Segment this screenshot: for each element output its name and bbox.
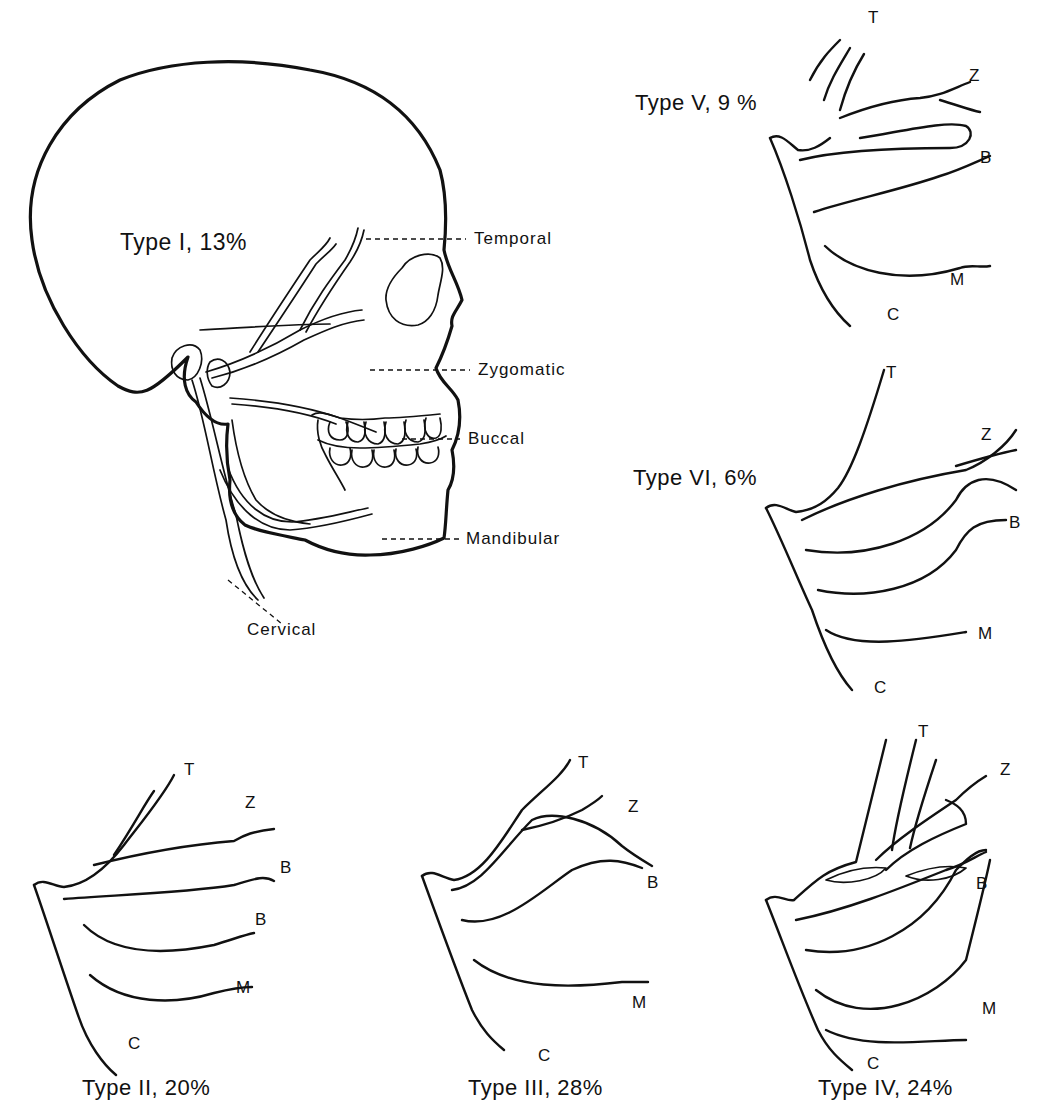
type-v-m-label: M bbox=[978, 624, 992, 644]
type-iii-z-label: Z bbox=[628, 797, 638, 817]
type-ii-c-label: C bbox=[128, 1034, 140, 1054]
type-iii-t-label: T bbox=[578, 753, 588, 773]
type-vi-b-label: B bbox=[976, 874, 987, 894]
type-ii-b1-label: B bbox=[280, 858, 291, 878]
type-iv-t-label: T bbox=[868, 8, 878, 28]
type-vi-z-label: Z bbox=[1000, 760, 1010, 780]
type-iii-title: Type III, 28% bbox=[468, 1075, 603, 1101]
type-v-c-label: C bbox=[874, 678, 886, 698]
type-i-nerve-branches bbox=[192, 228, 376, 600]
type-ii-t-label: T bbox=[184, 760, 194, 780]
type-v-b-label: B bbox=[1009, 513, 1020, 533]
facial-nerve-diagram bbox=[0, 0, 1041, 1117]
type-iii-m-label: M bbox=[632, 993, 646, 1013]
temporal-branch-label: Temporal bbox=[474, 229, 552, 249]
type-iii-b-label: B bbox=[647, 873, 658, 893]
type-vi-c-label: C bbox=[867, 1054, 879, 1074]
type-iii-c-label: C bbox=[538, 1046, 550, 1066]
skull-drawing bbox=[30, 62, 462, 555]
type-ii-nerve-diagram bbox=[34, 775, 274, 1075]
type-vi-m-label: M bbox=[982, 999, 996, 1019]
type-iv-m-label: M bbox=[950, 270, 964, 290]
type-ii-z-label: Z bbox=[245, 793, 255, 813]
type-iv-title: Type V, 9 % bbox=[635, 90, 757, 116]
type-v-title: Type VI, 6% bbox=[633, 465, 757, 491]
type-vi-t-label: T bbox=[918, 722, 928, 742]
type-iv-b-label: B bbox=[980, 148, 991, 168]
type-vi-nerve-diagram bbox=[766, 740, 990, 1070]
type-ii-title: Type II, 20% bbox=[82, 1075, 210, 1101]
zygomatic-branch-label: Zygomatic bbox=[478, 360, 565, 380]
cervical-branch-label: Cervical bbox=[247, 620, 316, 640]
type-i-title: Type I, 13% bbox=[120, 229, 247, 256]
type-iv-c-label: C bbox=[887, 305, 899, 325]
type-ii-b2-label: B bbox=[255, 910, 266, 930]
mandibular-branch-label: Mandibular bbox=[466, 529, 560, 549]
label-leader-lines bbox=[228, 239, 470, 624]
type-v-t-label: T bbox=[886, 363, 896, 383]
type-iv-z-label: Z bbox=[969, 66, 979, 86]
type-v-z-label: Z bbox=[981, 425, 991, 445]
type-iii-nerve-diagram bbox=[422, 760, 652, 1050]
type-ii-m-label: M bbox=[236, 978, 250, 998]
type-vi-title: Type IV, 24% bbox=[818, 1075, 953, 1101]
buccal-branch-label: Buccal bbox=[468, 429, 525, 449]
